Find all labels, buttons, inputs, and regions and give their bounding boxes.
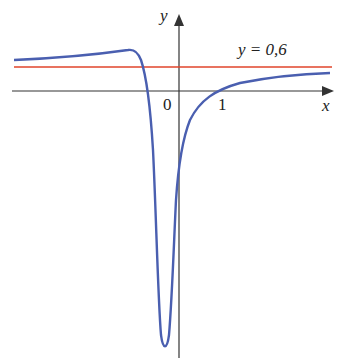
- origin-label: 0: [163, 95, 172, 115]
- x-axis-arrow-icon: [322, 86, 334, 96]
- chart-canvas: [0, 0, 340, 361]
- y-axis-label: y: [160, 6, 168, 26]
- function-curve: [14, 50, 330, 346]
- tick-label-one: 1: [218, 95, 227, 115]
- x-axis-label: x: [322, 96, 330, 116]
- asymptote-label: y = 0,6: [238, 40, 287, 60]
- y-axis-arrow-icon: [174, 14, 184, 26]
